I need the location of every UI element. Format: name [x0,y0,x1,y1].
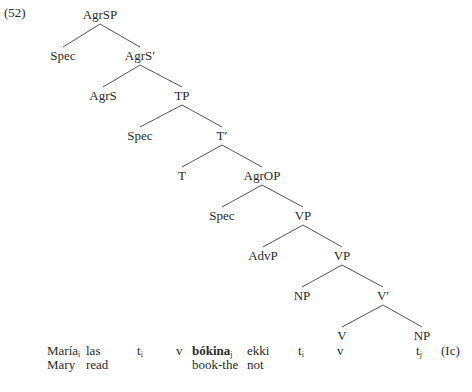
tree-branch [182,145,222,167]
gloss-book-the: book-the [192,358,238,372]
tree-branch [302,265,342,287]
tree-node-np: NP [414,329,431,343]
tree-node-v: V [337,329,346,343]
tree-branch [342,265,383,287]
tree-branch [63,24,100,47]
tree-node-np: NP [294,289,311,303]
verb-v-2: v [337,344,344,358]
trace-t-i-1: ti [137,344,143,358]
tree-branch [222,145,262,167]
trace-t-j: tj [416,344,422,358]
tree-branch [140,105,182,127]
tree-node-t-bar: T′ [217,129,228,143]
tree-branch [342,305,383,327]
tree-branch [182,105,222,127]
tree-branch [103,65,140,87]
gloss-read: read [86,358,108,372]
tree-node-vp: VP [334,249,351,263]
word-ekki: ekki [247,344,269,358]
tree-branch [303,225,342,247]
tree-node-agrop: AgrOP [244,169,281,183]
example-number: (52) [4,5,26,21]
word-maria: Maríai [47,344,80,358]
tree-node-v-bar: V′ [377,289,389,303]
tree-branch [100,24,140,47]
word-bokina: bókinaj [192,344,233,358]
tree-node-agrs-bar: AgrS′ [125,49,155,63]
gloss-not: not [247,358,264,372]
trace-t-i-2: ti [298,344,304,358]
verb-v-1: v [176,344,183,358]
tree-branch [262,185,303,207]
tree-branch [263,225,303,247]
tree-node-advp: AdvP [248,249,278,263]
example-label-ic: (Ic) [441,344,460,358]
tree-branch [222,185,262,207]
tree-node-spec: Spec [127,129,152,143]
tree-node-agrs: AgrS [89,89,116,103]
word-las: las [86,344,100,358]
tree-node-spec: Spec [209,209,234,223]
tree-node-agrsp: AgrSP [83,8,118,22]
tree-node-vp: VP [295,209,312,223]
gloss-mary: Mary [47,358,75,372]
tree-branch [140,65,182,87]
tree-branch [383,305,422,327]
tree-node-t: T [178,169,186,183]
tree-node-spec: Spec [50,49,75,63]
tree-node-tp: TP [174,89,189,103]
